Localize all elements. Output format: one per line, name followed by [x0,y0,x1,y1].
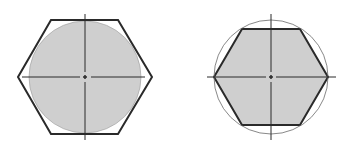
diagram-canvas: Gray filled circle inscribed in hexagon … [0,0,347,148]
figure-hexagon-in-circle [207,14,336,140]
hexagon-circle-diagram [0,0,347,148]
figure-circle-in-hexagon [18,14,152,140]
